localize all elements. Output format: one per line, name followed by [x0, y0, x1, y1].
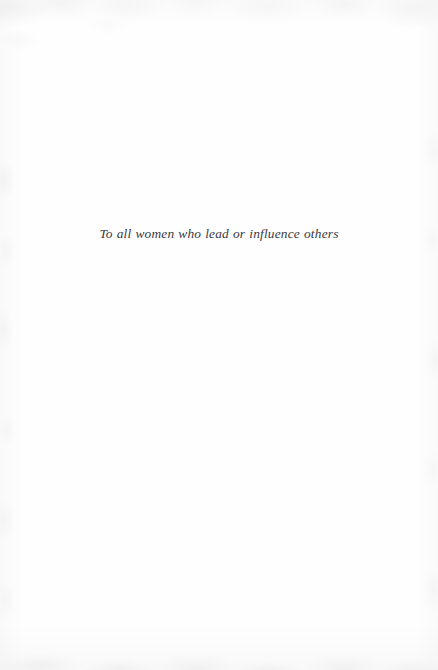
scanned-page: To all women who lead or influence other… — [0, 0, 438, 670]
page-top-edge-shading — [0, 0, 438, 34]
page-left-edge-shading — [0, 0, 26, 670]
dedication-block: To all women who lead or influence other… — [0, 224, 438, 243]
page-bottom-edge-shading — [0, 612, 438, 670]
dedication-text: To all women who lead or influence other… — [99, 224, 338, 243]
paper-texture-overlay — [0, 0, 438, 670]
page-right-edge-shading — [410, 0, 438, 670]
